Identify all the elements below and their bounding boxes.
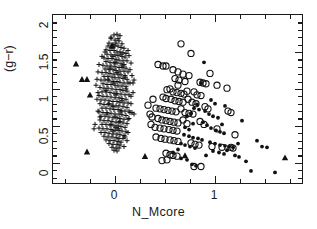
x-tick-bottom	[240, 179, 241, 183]
y-tick-right	[295, 52, 302, 53]
data-markers-layer	[53, 15, 302, 183]
data-point	[179, 142, 183, 146]
data-point	[218, 130, 222, 134]
y-tick-left	[53, 74, 57, 75]
y-tick-label: 1.5	[37, 50, 51, 74]
y-tick-left	[53, 148, 57, 149]
data-point	[216, 116, 220, 120]
data-point	[180, 117, 186, 123]
y-tick-right	[298, 37, 302, 38]
data-point	[225, 148, 229, 152]
data-point	[202, 60, 206, 64]
data-point	[96, 90, 101, 95]
y-tick-right	[298, 148, 302, 149]
data-point	[236, 142, 240, 146]
x-tick-bottom	[65, 179, 66, 183]
data-point	[273, 171, 277, 175]
x-tick-bottom	[90, 179, 91, 183]
data-point	[237, 155, 241, 159]
y-tick-left	[53, 170, 57, 171]
data-point	[176, 148, 180, 152]
y-tick-left	[53, 96, 57, 97]
y-tick-right	[298, 45, 302, 46]
data-point	[240, 119, 244, 123]
data-point	[97, 109, 102, 114]
data-point	[223, 144, 227, 148]
data-point	[211, 149, 215, 153]
y-tick-left	[53, 82, 57, 83]
y-tick-left	[53, 45, 57, 46]
data-point	[171, 151, 175, 155]
x-tick-bottom	[290, 179, 291, 183]
data-point	[223, 104, 227, 108]
y-tick-right	[298, 82, 302, 83]
data-point	[107, 141, 112, 146]
data-point	[191, 122, 195, 126]
data-point	[224, 85, 230, 91]
data-point	[195, 103, 199, 107]
data-point	[189, 111, 193, 115]
data-point	[213, 102, 217, 106]
data-point	[222, 131, 226, 135]
data-point	[232, 132, 238, 138]
x-tick-bottom	[115, 176, 116, 183]
data-point	[79, 76, 85, 82]
data-point	[84, 149, 90, 155]
data-point	[97, 62, 102, 67]
data-point	[187, 134, 191, 138]
data-point	[178, 106, 184, 112]
x-tick-bottom	[165, 179, 166, 183]
data-point	[222, 152, 226, 156]
y-tick-left	[53, 141, 57, 142]
x-tick-top	[265, 15, 266, 19]
y-tick-left	[53, 22, 57, 23]
y-tick-right	[295, 126, 302, 127]
data-point	[227, 145, 231, 149]
data-point	[117, 103, 122, 108]
data-point	[132, 78, 137, 83]
x-tick-bottom	[215, 176, 216, 183]
x-tick-top	[215, 15, 216, 22]
y-tick-right	[298, 178, 302, 179]
x-tick-top	[115, 15, 116, 22]
y-axis-title: (g−r)	[2, 45, 16, 72]
data-point	[205, 123, 209, 127]
y-tick-label: 0	[37, 161, 51, 185]
series-plus-markers	[92, 32, 137, 154]
y-tick-left	[53, 37, 57, 38]
data-point	[185, 158, 189, 162]
data-point	[163, 150, 169, 156]
data-point	[211, 114, 215, 118]
data-point	[196, 142, 202, 148]
data-point	[185, 114, 189, 118]
data-point	[92, 126, 97, 131]
data-point	[194, 164, 198, 168]
y-tick-right	[298, 74, 302, 75]
data-point	[179, 156, 183, 160]
y-tick-left	[53, 155, 57, 156]
x-tick-label: 0	[94, 188, 134, 202]
y-tick-right	[298, 155, 302, 156]
y-tick-right	[298, 59, 302, 60]
y-tick-left	[53, 89, 60, 90]
data-point	[172, 75, 178, 81]
data-point	[183, 143, 187, 147]
x-axis-title: N_Mcore	[0, 205, 317, 219]
data-point	[207, 112, 211, 116]
data-point	[207, 70, 213, 76]
data-point	[96, 109, 101, 114]
data-point	[197, 108, 201, 112]
data-point	[196, 137, 200, 141]
data-point	[96, 69, 101, 74]
y-tick-left	[53, 104, 57, 105]
data-point	[209, 126, 213, 130]
x-tick-top	[65, 15, 66, 19]
data-point	[260, 145, 264, 149]
y-tick-right	[298, 22, 302, 23]
x-tick-bottom	[140, 179, 141, 183]
data-point	[214, 128, 218, 132]
x-tick-top	[90, 15, 91, 19]
data-point	[213, 142, 217, 146]
y-tick-right	[295, 163, 302, 164]
y-tick-right	[295, 89, 302, 90]
